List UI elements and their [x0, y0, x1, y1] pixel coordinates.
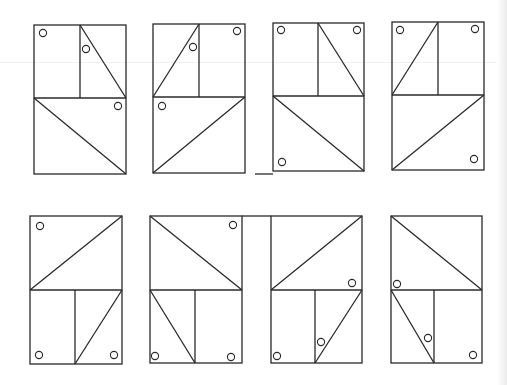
circle-marker: [424, 334, 431, 341]
circle-marker: [114, 102, 121, 109]
circle-marker: [469, 351, 476, 358]
circle-marker: [229, 221, 236, 228]
circle-marker: [36, 222, 43, 229]
figure-6: [150, 216, 242, 363]
circle-marker: [158, 102, 165, 109]
figure-4: [392, 22, 484, 170]
circle-marker: [393, 280, 400, 287]
figure-5: [30, 216, 122, 364]
figure-2: [153, 24, 245, 173]
diagonal-line: [34, 98, 126, 174]
circle-marker: [233, 27, 240, 34]
diagonal-line: [273, 96, 364, 171]
circle-marker: [396, 26, 403, 33]
circle-marker: [82, 45, 89, 52]
circle-marker: [110, 351, 117, 358]
diagonal-line: [271, 216, 362, 290]
circle-marker: [348, 279, 355, 286]
circle-marker: [277, 26, 284, 33]
diagonal-line: [150, 216, 242, 290]
figure-1: [34, 25, 126, 174]
diagonal-line: [80, 25, 126, 98]
figure-8: [391, 216, 482, 363]
diagonal-line: [150, 290, 195, 363]
diagonal-line: [391, 290, 434, 363]
figure-7: [271, 216, 362, 363]
diagonal-line: [391, 216, 482, 290]
circle-marker: [35, 351, 42, 358]
circle-marker: [353, 26, 360, 33]
diagonal-line: [153, 24, 199, 97]
diagonal-line: [315, 290, 362, 363]
circle-marker: [470, 155, 477, 162]
circle-marker: [151, 352, 158, 359]
circle-marker: [278, 158, 285, 165]
figure-grid: [0, 0, 507, 385]
circle-marker: [227, 353, 234, 360]
figure-3: [273, 23, 364, 171]
circle-marker: [189, 43, 196, 50]
circle-marker: [471, 25, 478, 32]
diagonal-line: [153, 97, 245, 173]
circle-marker: [317, 338, 324, 345]
circle-marker: [273, 352, 280, 359]
circle-marker: [39, 29, 46, 36]
